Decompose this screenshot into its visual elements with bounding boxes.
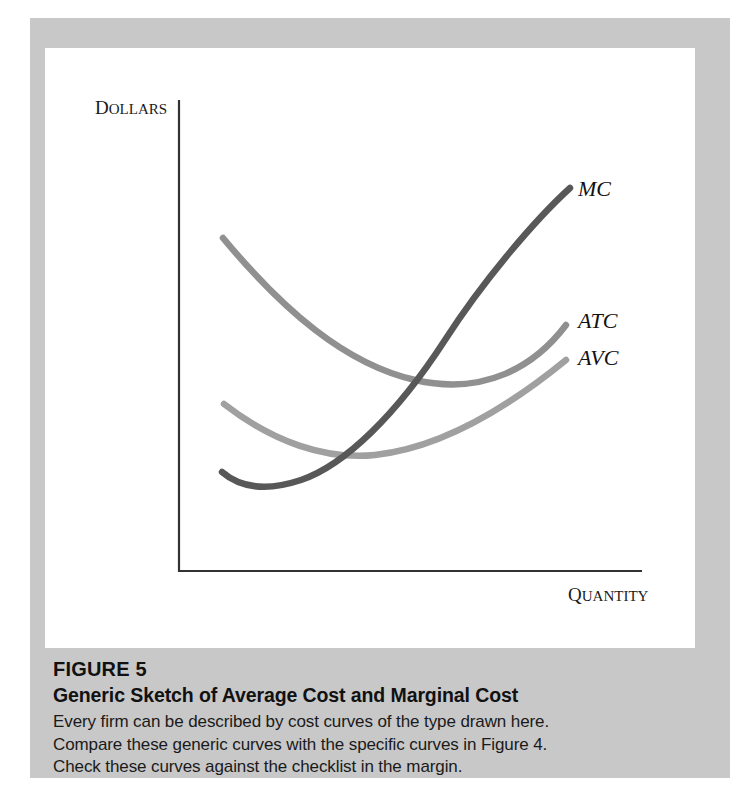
figure-page: DOLLARS QUANTITY MC ATC AVC FIGURE 5 Gen… (0, 0, 751, 798)
curve-label-atc: ATC (576, 308, 618, 333)
figure-description-line-1: Every firm can be described by cost curv… (53, 711, 693, 734)
figure-description-line-3: Check these curves against the checklist… (53, 756, 693, 779)
curve-atc (223, 238, 566, 384)
figure-number: FIGURE 5 (53, 657, 693, 681)
curve-label-mc: MC (577, 176, 611, 201)
y-axis-label-initial: D (95, 97, 109, 118)
x-axis-label-initial: Q (568, 584, 582, 605)
cost-curves-chart: DOLLARS QUANTITY MC ATC AVC (45, 48, 695, 648)
curve-mc (222, 188, 570, 487)
y-axis-label: DOLLARS (95, 97, 167, 118)
figure-description: Every firm can be described by cost curv… (53, 711, 693, 779)
figure-description-line-2: Compare these generic curves with the sp… (53, 734, 693, 757)
y-axis-label-rest: OLLARS (109, 101, 167, 117)
x-axis-label: QUANTITY (568, 584, 649, 605)
x-axis-label-rest: UANTITY (582, 588, 649, 604)
curve-label-avc: AVC (576, 345, 619, 370)
figure-title: Generic Sketch of Average Cost and Margi… (53, 683, 693, 708)
figure-caption: FIGURE 5 Generic Sketch of Average Cost … (53, 657, 693, 779)
